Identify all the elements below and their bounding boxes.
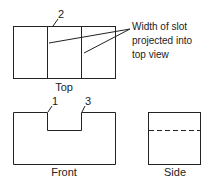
orthographic-projection-diagram: 2 Width of slot projected into top view …	[0, 0, 210, 186]
callout-2: 2	[58, 8, 64, 20]
top-view	[14, 19, 131, 79]
annotation-leader-1	[49, 29, 130, 43]
callout-3: 3	[85, 95, 91, 107]
front-view-label: Front	[51, 166, 77, 178]
front-view	[14, 106, 116, 165]
side-view-outline	[149, 113, 201, 165]
annotation-line-1: Width of slot	[132, 21, 187, 32]
callout-1: 1	[52, 95, 58, 107]
side-view-label: Side	[164, 166, 186, 178]
annotation-line-3: top view	[132, 49, 169, 60]
side-view	[149, 113, 201, 165]
top-view-label: Top	[55, 81, 73, 93]
front-view-outline	[14, 113, 116, 165]
annotation-line-2: projected into	[132, 35, 192, 46]
leader-2	[53, 19, 58, 26]
